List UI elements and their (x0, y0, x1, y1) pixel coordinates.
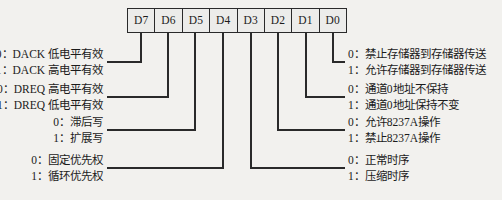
annotation-d1: 0：通道0地址不保持 1：通道0地址保持不变 (348, 82, 459, 113)
annotation-d6: 0：DREQ 高电平有效 1：DREQ 低电平有效 (0, 82, 103, 113)
annotation-d0-line1: 1：允许存储器到存储器传送 (348, 63, 486, 79)
register-cell-d5[interactable]: D5 (183, 9, 210, 32)
annotation-d0: 0：禁止存储器到存储器传送 1：允许存储器到存储器传送 (348, 47, 486, 78)
annotation-d7: 0：DACK 低电平有效 1：DACK 高电平有效 (0, 47, 103, 78)
annotation-d4-line1: 1：循环优先权 (31, 169, 103, 185)
annotation-d5-line1: 1：扩展写 (53, 131, 103, 147)
register-cell-d0[interactable]: D0 (320, 9, 346, 32)
register-cell-d1[interactable]: D1 (292, 9, 319, 32)
annotation-d2: 0：允许8237A操作 1：禁止8237A操作 (348, 115, 440, 146)
annotation-d5-line0: 0：滞后写 (53, 115, 103, 131)
annotation-d3-line1: 1：压缩时序 (348, 169, 409, 185)
leader-line-d4 (107, 33, 223, 168)
register-cell-d6[interactable]: D6 (155, 9, 182, 32)
leader-line-d0 (333, 33, 345, 62)
leader-line-d2 (278, 33, 345, 130)
register-cell-d3[interactable]: D3 (238, 9, 265, 32)
annotation-d4: 0：固定优先权 1：循环优先权 (31, 153, 103, 184)
leader-line-d7 (107, 33, 141, 62)
annotation-d2-line1: 1：禁止8237A操作 (348, 131, 440, 147)
register-cell-d2[interactable]: D2 (265, 9, 292, 32)
leader-line-d6 (107, 33, 168, 97)
annotation-d7-line0: 0：DACK 低电平有效 (0, 47, 103, 63)
annotation-d0-line0: 0：禁止存储器到存储器传送 (348, 47, 486, 63)
register-cell-d7[interactable]: D7 (128, 9, 155, 32)
leader-line-d3 (251, 33, 345, 168)
annotation-d7-line1: 1：DACK 高电平有效 (0, 63, 103, 79)
leader-line-d5 (107, 33, 195, 130)
register-bit-box: D7 D6 D5 D4 D3 D2 D1 D0 (127, 8, 347, 33)
annotation-d4-line0: 0：固定优先权 (31, 153, 103, 169)
annotation-d1-line0: 0：通道0地址不保持 (348, 82, 459, 98)
annotation-d1-line1: 1：通道0地址保持不变 (348, 98, 459, 114)
annotation-d3-line0: 0：正常时序 (348, 153, 409, 169)
annotation-d6-line0: 0：DREQ 高电平有效 (0, 82, 103, 98)
diagram-canvas: D7 D6 D5 D4 D3 D2 D1 D0 0：DACK 低电平有效 1：D… (0, 0, 502, 200)
annotation-d2-line0: 0：允许8237A操作 (348, 115, 440, 131)
annotation-d6-line1: 1：DREQ 低电平有效 (0, 98, 103, 114)
annotation-d5: 0：滞后写 1：扩展写 (53, 115, 103, 146)
annotation-d3: 0：正常时序 1：压缩时序 (348, 153, 409, 184)
leader-line-d1 (306, 33, 345, 97)
register-cell-d4[interactable]: D4 (210, 9, 237, 32)
